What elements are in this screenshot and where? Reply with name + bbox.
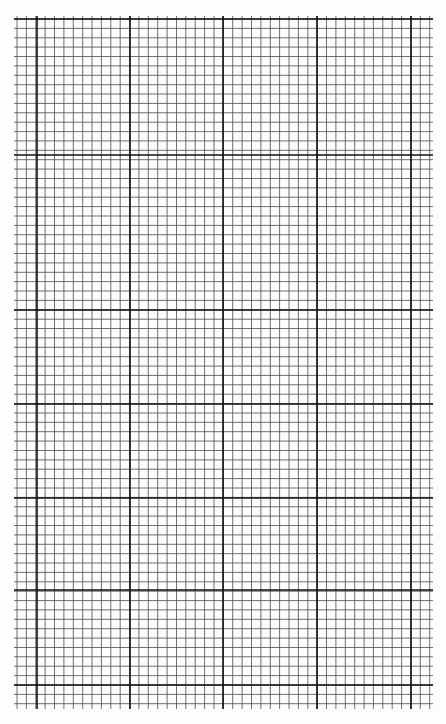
grid-lines: [0, 0, 446, 724]
graph-paper-sheet: [0, 0, 446, 724]
